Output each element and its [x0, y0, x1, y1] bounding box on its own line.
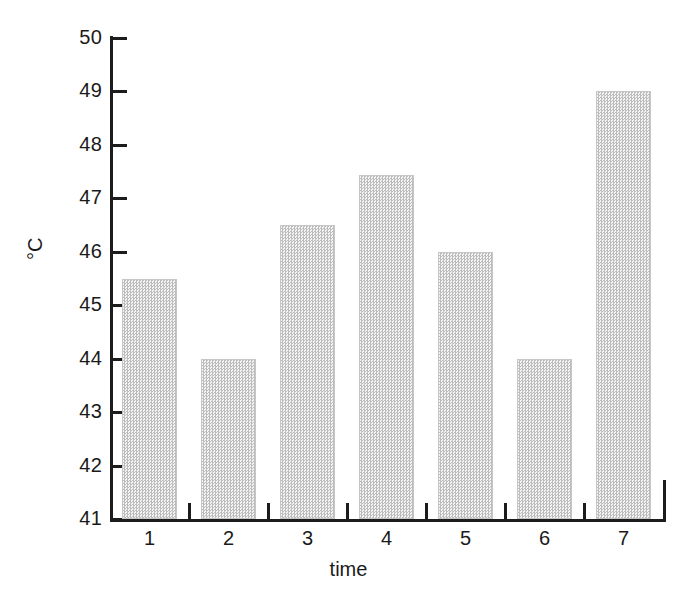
y-tick-label-text: 50	[58, 27, 102, 47]
x-tick-mark	[346, 503, 349, 522]
y-tick-label: 45	[52, 294, 102, 314]
y-tick-label: 44	[52, 348, 102, 368]
y-tick-label: 43	[52, 401, 102, 421]
y-axis-line	[110, 36, 113, 522]
bar-chart-figure: °C 41424344454647484950 1234567 time	[0, 0, 697, 600]
bar	[280, 225, 335, 519]
x-tick-mark	[504, 503, 507, 522]
y-tick-label-text: 45	[58, 294, 102, 314]
y-tick-mark	[110, 251, 127, 254]
x-tick-mark	[267, 503, 270, 522]
y-tick-label-text: 44	[58, 348, 102, 368]
x-tick-label: 3	[278, 527, 338, 549]
y-tick-mark	[110, 197, 127, 200]
x-tick-label: 4	[357, 527, 417, 549]
y-tick-label: 48	[52, 134, 102, 154]
y-tick-label-text: 46	[58, 241, 102, 261]
x-tick-mark	[583, 503, 586, 522]
right-axis-stub	[663, 480, 666, 522]
y-axis-title: °C	[25, 238, 45, 260]
y-tick-mark	[110, 37, 127, 40]
x-tick-label: 1	[120, 527, 180, 549]
y-tick-label: 42	[52, 455, 102, 475]
bar	[438, 252, 493, 519]
y-tick-label-text: 48	[58, 134, 102, 154]
x-tick-label: 7	[594, 527, 654, 549]
y-tick-mark	[110, 90, 127, 93]
y-tick-label: 47	[52, 187, 102, 207]
y-tick-label: 49	[52, 80, 102, 100]
x-tick-label: 5	[436, 527, 496, 549]
y-tick-label-text: 42	[58, 455, 102, 475]
x-axis-title: time	[0, 558, 697, 580]
y-tick-label-text: 49	[58, 80, 102, 100]
bar	[359, 175, 414, 519]
y-tick-label: 41	[52, 508, 102, 528]
y-tick-label-text: 47	[58, 187, 102, 207]
y-tick-mark	[110, 144, 127, 147]
x-tick-label: 2	[199, 527, 259, 549]
y-tick-label: 50	[52, 27, 102, 47]
bar	[201, 359, 256, 519]
y-tick-label: 46	[52, 241, 102, 261]
bar	[122, 279, 177, 520]
bar	[517, 359, 572, 519]
x-tick-mark	[425, 503, 428, 522]
y-tick-label-text: 43	[58, 401, 102, 421]
x-tick-mark	[188, 503, 191, 522]
x-tick-label: 6	[515, 527, 575, 549]
bar	[596, 91, 651, 519]
y-tick-label-text: 41	[58, 508, 102, 528]
